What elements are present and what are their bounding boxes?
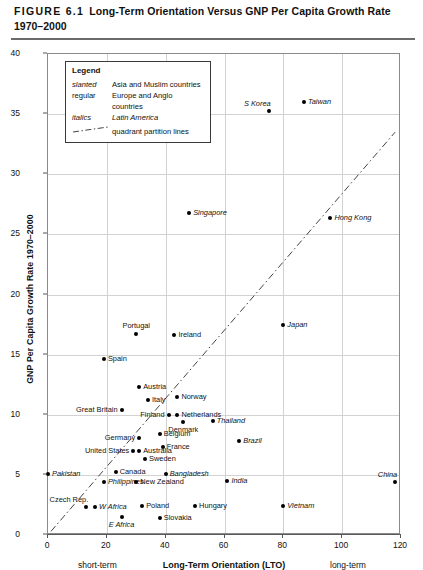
y-axis-tick-mark (43, 173, 47, 174)
data-point[interactable] (143, 457, 147, 461)
data-point[interactable] (281, 504, 285, 508)
data-point[interactable] (158, 432, 162, 436)
data-point[interactable] (120, 408, 124, 412)
data-point[interactable] (393, 480, 397, 484)
y-axis-tick-label: 30 (0, 168, 20, 178)
figure-title: FIGURE 6.1Long-Term Orientation Versus G… (14, 4, 409, 19)
legend-key: italics (72, 113, 112, 124)
data-point-label: China (378, 471, 397, 479)
y-axis-tick-label: 10 (0, 409, 20, 419)
data-point[interactable] (267, 109, 271, 113)
y-axis-tick-label: 20 (0, 289, 20, 299)
data-point[interactable] (158, 516, 162, 520)
data-point-label: Finland (140, 411, 164, 419)
y-axis-tick-mark (43, 53, 47, 54)
data-point[interactable] (237, 439, 241, 443)
data-point-label: Canada (120, 468, 146, 476)
data-point[interactable] (134, 332, 138, 336)
data-point-label: India (231, 477, 247, 485)
legend-row: regularEurope and Anglo countries (72, 91, 205, 112)
header-divider (11, 38, 415, 40)
data-point-label: Spain (108, 355, 127, 363)
y-axis-tick-label: 40 (0, 48, 20, 58)
figure-header: FIGURE 6.1Long-Term Orientation Versus G… (0, 0, 423, 36)
data-point[interactable] (84, 505, 88, 509)
x-axis-tick-label: 100 (321, 540, 361, 550)
data-point[interactable] (281, 323, 285, 327)
data-point-label: Sweden (149, 455, 176, 463)
y-axis-tick-label: 25 (0, 228, 20, 238)
y-axis-tick-label: 15 (0, 349, 20, 359)
data-point[interactable] (114, 470, 118, 474)
data-point-label: Brazil (243, 437, 261, 445)
legend-row: slantedAsia and Muslim countries (72, 80, 205, 91)
data-point-label: Taiwan (308, 98, 331, 106)
data-point[interactable] (131, 449, 135, 453)
data-point[interactable] (134, 480, 138, 484)
chart-container: GNP Per Capita Growth Rate 1970–2000 S K… (0, 44, 423, 544)
data-point[interactable] (93, 505, 97, 509)
legend-key: regular (72, 91, 112, 102)
data-point-label: Great Britain (76, 406, 118, 414)
data-point[interactable] (137, 436, 141, 440)
data-point-label: Philippines (108, 478, 144, 486)
data-point-label: E Africa (109, 521, 135, 529)
data-point[interactable] (175, 413, 179, 417)
legend-key: slanted (72, 80, 112, 91)
legend-row: quadrant partition lines (72, 125, 205, 138)
data-point[interactable] (120, 515, 124, 519)
data-point[interactable] (302, 100, 306, 104)
data-point-label: New Zealand (140, 478, 184, 486)
chart-legend: Legend slantedAsia and Muslim countriesr… (65, 61, 211, 143)
legend-value: Latin America (112, 113, 205, 124)
data-point[interactable] (181, 420, 185, 424)
data-point[interactable] (328, 216, 332, 220)
data-point[interactable] (140, 504, 144, 508)
x-axis-tick-label: 60 (204, 540, 244, 550)
x-axis-annotation-short-term: short-term (78, 560, 117, 570)
data-point-label: Italy (152, 396, 166, 404)
data-point[interactable] (102, 357, 106, 361)
y-axis-tick-mark (43, 293, 47, 294)
data-point-label: W Africa (99, 503, 127, 511)
data-point[interactable] (211, 419, 215, 423)
legend-title: Legend (72, 66, 205, 77)
data-point-label: United States (85, 447, 129, 455)
data-point[interactable] (137, 449, 141, 453)
y-axis-tick-mark (43, 233, 47, 234)
data-point[interactable] (175, 395, 179, 399)
data-point-label: Japan (287, 321, 307, 329)
diagonal-quadrant-line (51, 132, 395, 531)
data-point[interactable] (102, 480, 106, 484)
data-point[interactable] (137, 385, 141, 389)
data-point[interactable] (172, 333, 176, 337)
data-point[interactable] (187, 211, 191, 215)
data-point-label: Norway (181, 393, 206, 401)
x-axis-tick-label: 20 (86, 540, 126, 550)
data-point[interactable] (164, 472, 168, 476)
data-point[interactable] (225, 479, 229, 483)
data-point-label: Pakistan (52, 470, 80, 478)
y-axis-label: GNP Per Capita Growth Rate 1970–2000 (25, 69, 35, 529)
legend-value: Asia and Muslim countries (112, 80, 205, 91)
legend-dash-sample-icon (72, 125, 112, 134)
legend-rows: slantedAsia and Muslim countriesregularE… (72, 80, 205, 138)
figure-title-subline: 1970–2000 (14, 19, 409, 34)
data-point-label: Poland (146, 502, 169, 510)
data-point-label: Thailand (217, 417, 245, 425)
data-point[interactable] (193, 504, 197, 508)
data-point[interactable] (146, 398, 150, 402)
data-point-label: Hungary (199, 502, 227, 510)
x-axis-annotation-long-term: long-term (330, 560, 366, 570)
data-point-label: Portugal (122, 322, 150, 330)
data-point-label: Netherlands (181, 411, 221, 419)
data-point-label: S Korea (244, 100, 271, 108)
y-axis-tick-mark (43, 473, 47, 474)
legend-row: italicsLatin America (72, 113, 205, 124)
y-axis-tick-mark (43, 413, 47, 414)
y-axis-tick-label: 5 (0, 469, 20, 479)
y-axis-tick-mark (43, 353, 47, 354)
data-point[interactable] (167, 413, 171, 417)
data-point-label: Czech Rep. (50, 496, 89, 504)
y-axis-tick-mark (43, 113, 47, 114)
